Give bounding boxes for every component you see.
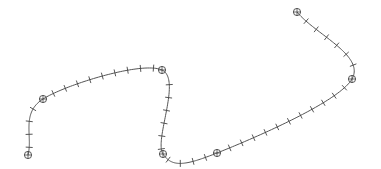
tick-mark (332, 93, 336, 99)
spline-diagram (0, 0, 381, 169)
knot-marker-icon (213, 149, 220, 156)
tick-mark (163, 110, 170, 111)
knot-marker-icon (158, 66, 165, 73)
knot-marker-icon (293, 8, 300, 15)
tick-mark (158, 136, 165, 137)
tick-mark (314, 27, 318, 33)
knot-markers (24, 8, 355, 158)
tick-mark (153, 65, 154, 72)
knot-marker-icon (24, 151, 31, 158)
knot-marker-icon (39, 95, 46, 102)
tick-mark (321, 100, 325, 106)
tick-mark (30, 107, 36, 111)
tick-mark (310, 106, 313, 112)
knot-marker-icon (348, 75, 355, 82)
tick-mark (324, 34, 328, 40)
knot-marker-icon (159, 150, 166, 157)
tick-marks (26, 19, 357, 167)
tick-mark (165, 97, 172, 98)
tick-mark (140, 65, 141, 72)
tick-mark (158, 148, 165, 149)
tick-mark (26, 121, 33, 122)
tick-mark (127, 67, 128, 74)
spline-curve (28, 12, 354, 163)
tick-mark (299, 112, 302, 118)
